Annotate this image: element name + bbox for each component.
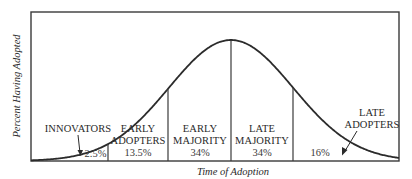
label-late-majority-line1: LATE — [249, 123, 275, 134]
y-axis-label: Percent Having Adopted — [11, 34, 22, 139]
label-early-majority-line2: MAJORITY — [173, 135, 227, 146]
label-late-adopters-line1: LATE — [359, 107, 385, 118]
pct-innovators: 2.5% — [85, 148, 107, 159]
label-early-majority-line1: EARLY — [183, 123, 218, 134]
label-late-adopters-line2: ADOPTERS — [344, 119, 399, 130]
label-innovators: INNOVATORS — [45, 123, 112, 134]
label-late-majority-line2: MAJORITY — [235, 135, 289, 146]
pct-late-adopters: 16% — [310, 147, 330, 158]
label-early-adopters-line2: ADOPTERS — [110, 135, 165, 146]
pct-early-majority: 34% — [190, 147, 210, 158]
pct-late-majority: 34% — [252, 147, 272, 158]
adoption-curve-chart: INNOVATORS 2.5% EARLY ADOPTERS 13.5% EAR… — [0, 0, 412, 179]
label-early-adopters-line1: EARLY — [121, 123, 156, 134]
late-adopters-arrow-shaft — [345, 131, 357, 151]
pct-early-adopters: 13.5% — [124, 147, 151, 158]
x-axis-label: Time of Adoption — [197, 166, 269, 177]
